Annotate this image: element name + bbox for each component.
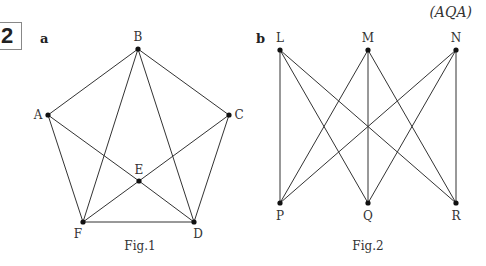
- figure-caption-2: Fig.2: [352, 239, 383, 253]
- edge-C-E: [139, 115, 229, 181]
- vertex-label-F: F: [74, 227, 82, 241]
- edge-B-F: [83, 49, 138, 222]
- vertex-P: [277, 200, 282, 205]
- edge-E-F: [83, 181, 139, 222]
- vertex-A: [45, 112, 50, 117]
- vertex-L: [277, 47, 282, 52]
- vertex-Q: [365, 200, 370, 205]
- vertex-label-N: N: [451, 31, 462, 45]
- edge-C-D: [194, 115, 229, 222]
- vertex-label-L: L: [276, 31, 284, 45]
- edge-B-C: [138, 49, 229, 115]
- vertex-label-E: E: [135, 163, 144, 177]
- graph-diagrams: ABCDEFFig.1LMNPQRFig.2: [0, 0, 486, 266]
- vertex-label-M: M: [362, 31, 374, 45]
- vertex-N: [453, 47, 458, 52]
- vertex-B: [135, 46, 140, 51]
- vertex-D: [191, 219, 196, 224]
- vertex-C: [226, 112, 231, 117]
- edge-B-D: [138, 49, 194, 222]
- edge-A-E: [48, 115, 139, 181]
- vertex-label-Q: Q: [363, 209, 373, 223]
- figure-caption-1: Fig.1: [124, 239, 155, 253]
- vertex-label-R: R: [451, 209, 461, 223]
- vertex-M: [365, 47, 370, 52]
- edge-F-A: [48, 115, 83, 222]
- vertex-label-P: P: [276, 209, 284, 223]
- vertex-label-C: C: [234, 108, 243, 122]
- vertex-label-D: D: [193, 227, 203, 241]
- edge-A-B: [48, 49, 138, 115]
- edge-E-D: [139, 181, 194, 222]
- vertex-label-B: B: [134, 30, 143, 44]
- vertex-label-A: A: [33, 108, 43, 122]
- vertex-E: [136, 178, 141, 183]
- vertex-F: [80, 219, 85, 224]
- vertex-R: [453, 200, 458, 205]
